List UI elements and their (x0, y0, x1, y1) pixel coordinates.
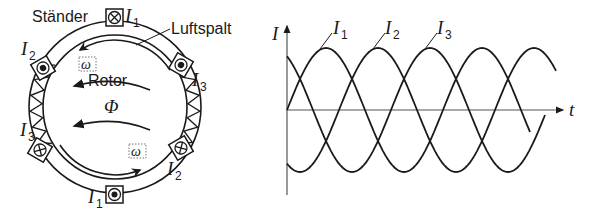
y-axis-label: I (271, 23, 280, 44)
svg-text:I: I (332, 17, 341, 38)
svg-text:2: 2 (29, 49, 36, 63)
svg-text:I: I (436, 17, 445, 38)
stator-label: Ständer (32, 8, 89, 25)
omega-label-upper: ω (81, 57, 91, 72)
svg-text:2: 2 (175, 169, 182, 183)
leader-i2 (373, 33, 385, 49)
motor-diagram: Rotor Φ ω ω (19, 5, 232, 211)
air-gap-arrow-bottom (60, 145, 140, 175)
air-gap-label: Luftspalt (171, 20, 232, 37)
svg-text:3: 3 (28, 130, 35, 144)
label-i1-top: I 1 (124, 5, 140, 30)
figure: Rotor Φ ω ω (0, 0, 593, 213)
svg-text:3: 3 (445, 28, 452, 42)
air-gap-arrow-top (80, 40, 170, 70)
svg-text:I: I (166, 158, 175, 179)
conductor-i1-bottom (106, 186, 123, 203)
svg-text:I: I (384, 17, 393, 38)
omega-label-lower: ω (131, 144, 141, 159)
svg-text:I: I (87, 186, 96, 207)
svg-text:I: I (20, 38, 29, 59)
rotor-label: Rotor (88, 72, 128, 89)
current-chart: I t I 1 I 2 I 3 (271, 17, 575, 195)
x-axis-label: t (569, 99, 575, 120)
svg-text:1: 1 (341, 28, 348, 42)
legend-i2: I 2 (384, 17, 400, 42)
svg-text:1: 1 (96, 197, 103, 211)
label-i3-lower-left: I 3 (19, 119, 35, 144)
conductor-i1-top (106, 9, 123, 26)
svg-text:I: I (19, 119, 28, 140)
label-i1-bottom: I 1 (87, 186, 103, 211)
conductor-i3-upper-right (169, 53, 194, 78)
legend-i1: I 1 (332, 17, 348, 42)
svg-text:3: 3 (200, 80, 207, 94)
flux-arrow-lower (74, 121, 150, 130)
svg-text:1: 1 (133, 16, 140, 30)
leader-i3 (425, 33, 437, 49)
flux-label: Φ (104, 96, 118, 117)
legend-i3: I 3 (436, 17, 452, 42)
svg-text:2: 2 (393, 28, 400, 42)
label-i2-upper-left: I 2 (20, 38, 36, 63)
leader-i1 (320, 33, 332, 49)
